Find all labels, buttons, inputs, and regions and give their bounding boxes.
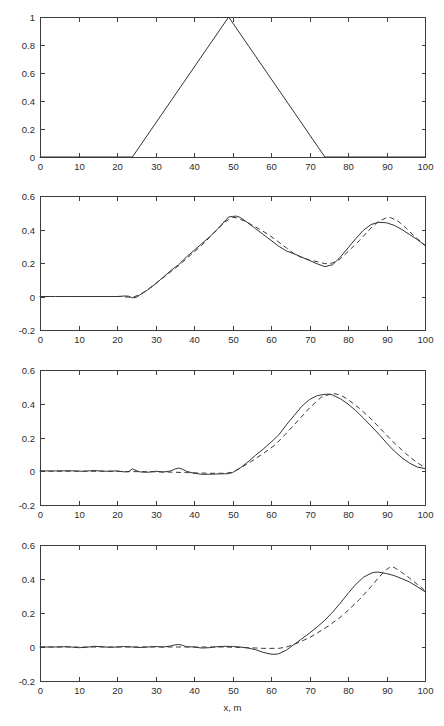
x-tick-label: 40 (189, 334, 200, 345)
y-tick-label: 0.6 (22, 68, 35, 79)
y-tick-label: 0.4 (22, 399, 35, 410)
x-tick-label: 90 (382, 685, 393, 696)
x-tick-label: 70 (305, 161, 316, 172)
y-tick-label: -0.2 (19, 500, 35, 511)
x-tick-label: 100 (418, 685, 434, 696)
x-tick-label: 50 (228, 161, 239, 172)
series-solid (40, 572, 425, 654)
y-tick-label: 0.2 (22, 124, 35, 135)
y-tick-label: 0.2 (22, 433, 35, 444)
y-tick-label: 0.4 (22, 225, 35, 236)
x-tick-label: 100 (418, 509, 434, 520)
x-tick-label: 80 (343, 161, 354, 172)
series-dashed (40, 393, 425, 473)
x-tick-label: 0 (38, 509, 43, 520)
plot-box-1 (41, 18, 426, 158)
x-tick-label: 50 (228, 334, 239, 345)
series-dashed (40, 217, 425, 297)
x-tick-label: 90 (382, 334, 393, 345)
x-tick-label: 80 (343, 334, 354, 345)
plot-box-3 (41, 371, 426, 506)
series-dashed (40, 567, 425, 649)
y-tick-label: 0 (30, 466, 35, 477)
y-tick-label: 0.6 (22, 365, 35, 376)
y-tick-label: 1 (30, 12, 35, 23)
y-tick-label: -0.2 (19, 325, 35, 336)
multi-panel-figure: 010203040506070809010000.20.40.60.810102… (0, 0, 444, 726)
y-tick-label: 0.6 (22, 191, 35, 202)
plot-box-4 (41, 546, 426, 682)
x-tick-label: 80 (343, 685, 354, 696)
y-tick-label: 0 (30, 292, 35, 303)
x-tick-label: 20 (112, 685, 123, 696)
y-tick-label: 0.4 (22, 96, 35, 107)
x-tick-label: 100 (418, 161, 434, 172)
x-tick-label: 30 (151, 334, 162, 345)
x-tick-label: 50 (228, 685, 239, 696)
y-tick-label: 0.2 (22, 258, 35, 269)
x-tick-label: 70 (305, 685, 316, 696)
x-tick-label: 60 (266, 334, 277, 345)
x-tick-label: 20 (112, 334, 123, 345)
y-tick-label: 0 (30, 642, 35, 653)
x-tick-label: 30 (151, 509, 162, 520)
x-tick-label: 60 (266, 161, 277, 172)
x-tick-label: 10 (74, 509, 85, 520)
plot-panel-4: 0102030405060708090100-0.200.20.40.6x, m (0, 0, 444, 726)
plot-panel-2: 0102030405060708090100-0.200.20.40.6 (0, 0, 444, 726)
x-tick-label: 70 (305, 334, 316, 345)
y-tick-label: -0.2 (19, 676, 35, 687)
x-tick-label: 10 (74, 685, 85, 696)
x-tick-label: 30 (151, 685, 162, 696)
plot-panel-1: 010203040506070809010000.20.40.60.81 (0, 0, 444, 726)
y-tick-label: 0.4 (22, 574, 35, 585)
x-tick-label: 90 (382, 161, 393, 172)
x-tick-label: 40 (189, 161, 200, 172)
plot-box-2 (41, 197, 426, 331)
y-tick-label: 0 (30, 152, 35, 163)
x-tick-label: 0 (38, 334, 43, 345)
y-tick-label: 0.8 (22, 40, 35, 51)
x-tick-label: 20 (112, 161, 123, 172)
x-tick-label: 90 (382, 509, 393, 520)
x-tick-label: 10 (74, 161, 85, 172)
y-tick-label: 0.6 (22, 540, 35, 551)
series-solid (40, 394, 425, 474)
x-tick-label: 20 (112, 509, 123, 520)
x-tick-label: 70 (305, 509, 316, 520)
x-axis-label: x, m (224, 702, 242, 713)
x-tick-label: 80 (343, 509, 354, 520)
x-tick-label: 60 (266, 509, 277, 520)
x-tick-label: 30 (151, 161, 162, 172)
x-tick-label: 0 (38, 161, 43, 172)
x-tick-label: 50 (228, 509, 239, 520)
x-tick-label: 40 (189, 509, 200, 520)
x-tick-label: 40 (189, 685, 200, 696)
series-solid (40, 17, 425, 157)
x-tick-label: 10 (74, 334, 85, 345)
y-tick-label: 0.2 (22, 608, 35, 619)
x-tick-label: 0 (38, 685, 43, 696)
x-tick-label: 100 (418, 334, 434, 345)
plot-panel-3: 0102030405060708090100-0.200.20.40.6 (0, 0, 444, 726)
series-solid (40, 216, 425, 298)
x-tick-label: 60 (266, 685, 277, 696)
